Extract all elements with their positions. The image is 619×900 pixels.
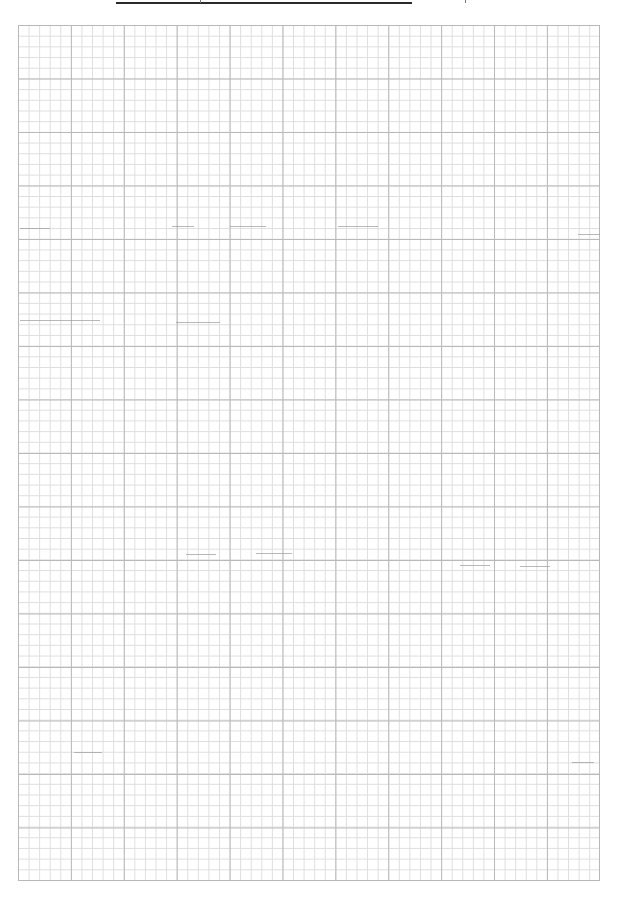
graph-paper-grid	[18, 25, 600, 881]
title-tick-right	[465, 0, 466, 3]
pencil-mark	[74, 752, 102, 753]
pencil-mark	[572, 762, 594, 763]
pencil-mark	[520, 566, 550, 567]
pencil-mark	[578, 234, 600, 235]
pencil-mark	[256, 553, 292, 554]
pencil-mark	[20, 228, 50, 229]
pencil-mark	[20, 320, 100, 321]
pencil-mark	[176, 322, 220, 323]
pencil-mark	[230, 226, 266, 227]
pencil-mark	[460, 565, 490, 566]
pencil-mark	[172, 226, 194, 227]
title-underline	[116, 2, 412, 4]
title-tick-left	[200, 0, 201, 3]
pencil-mark	[186, 554, 216, 555]
pencil-mark	[338, 226, 378, 227]
